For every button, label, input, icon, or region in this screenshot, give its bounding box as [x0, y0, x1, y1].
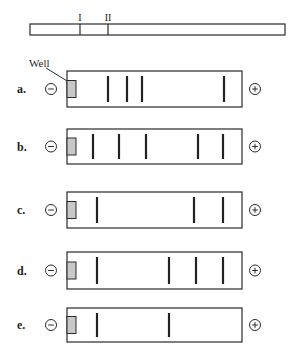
- lane-label: c.: [17, 203, 25, 217]
- gel-box: [67, 252, 242, 289]
- well-callout: Well: [29, 57, 72, 84]
- restriction-map: III: [30, 12, 285, 35]
- gel-electrophoresis-diagram: III Well a.b.c.d.e.: [0, 0, 307, 364]
- gel-lanes: a.b.c.d.e.: [17, 71, 261, 342]
- sample-well: [67, 262, 76, 279]
- lane-label: b.: [17, 140, 27, 154]
- well-label: Well: [29, 57, 50, 69]
- gel-lane-c: c.: [17, 192, 261, 228]
- gel-lane-e: e.: [17, 308, 261, 342]
- lane-label: a.: [17, 82, 26, 96]
- gel-lane-a: a.: [17, 71, 261, 107]
- lane-label: d.: [17, 264, 27, 278]
- gel-lane-b: b.: [17, 129, 261, 164]
- restriction-site-label: II: [105, 12, 112, 23]
- sample-well: [67, 317, 76, 334]
- dna-map-bar: [30, 24, 285, 35]
- gel-box: [67, 71, 242, 107]
- gel-box: [67, 192, 242, 228]
- sample-well: [67, 138, 76, 155]
- sample-well: [67, 81, 76, 98]
- restriction-site-label: I: [78, 12, 81, 23]
- gel-box: [67, 308, 242, 342]
- gel-lane-d: d.: [17, 252, 261, 289]
- sample-well: [67, 202, 76, 219]
- lane-label: e.: [17, 318, 25, 332]
